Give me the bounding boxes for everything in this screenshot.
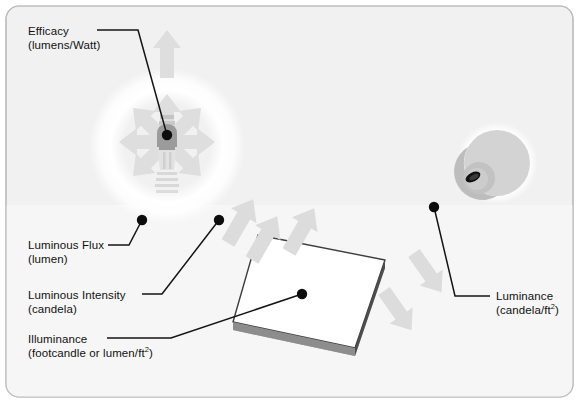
label-luminous-intensity-unit: (candela) <box>28 302 126 316</box>
dot-intensity <box>214 215 224 225</box>
label-efficacy-unit: (lumens/Watt) <box>28 38 100 52</box>
label-luminous-flux-term: Luminous Flux <box>28 239 104 251</box>
dot-flux <box>137 215 147 225</box>
label-illuminance-unit-post: ) <box>149 347 153 359</box>
label-efficacy: Efficacy (lumens/Watt) <box>28 24 100 52</box>
dot-luminance <box>429 202 439 212</box>
label-illuminance-unit-pre: (footcandle or lumen/ft <box>28 347 145 359</box>
label-efficacy-term: Efficacy <box>28 25 69 37</box>
dot-illuminance <box>297 289 307 299</box>
label-luminance-unit-post: ) <box>555 304 559 316</box>
label-luminous-flux-unit: (lumen) <box>28 252 104 266</box>
diagram-canvas: Efficacy (lumens/Watt) Luminous Flux (lu… <box>0 0 579 403</box>
label-illuminance-term: Illuminance <box>28 333 87 345</box>
label-luminance-term: Luminance <box>496 290 553 302</box>
label-illuminance: Illuminance (footcandle or lumen/ft2) <box>28 332 153 360</box>
label-luminous-intensity: Luminous Intensity (candela) <box>28 288 126 316</box>
label-luminous-intensity-term: Luminous Intensity <box>28 289 126 301</box>
label-luminance-unit-pre: (candela/ft <box>496 304 551 316</box>
label-luminance-unit: (candela/ft2) <box>496 303 559 317</box>
label-luminous-flux: Luminous Flux (lumen) <box>28 238 104 266</box>
label-luminance: Luminance (candela/ft2) <box>496 289 559 317</box>
label-illuminance-unit: (footcandle or lumen/ft2) <box>28 346 153 360</box>
dot-efficacy <box>162 130 172 140</box>
